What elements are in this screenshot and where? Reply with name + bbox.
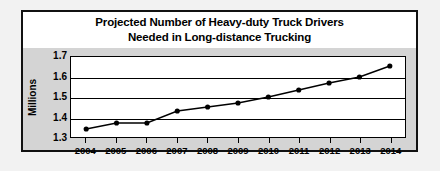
- x-tick: [360, 138, 361, 143]
- y-axis-tick-labels: 1.31.41.51.61.7: [39, 48, 67, 150]
- x-tick: [207, 138, 208, 143]
- gridline: [71, 98, 405, 99]
- data-point: [235, 100, 240, 105]
- chart-title-line-2: Needed in Long-distance Trucking: [128, 30, 311, 45]
- data-point: [387, 63, 392, 68]
- plot-area: [70, 56, 406, 138]
- x-tick: [146, 138, 147, 143]
- data-point: [114, 120, 119, 125]
- data-point: [175, 108, 180, 113]
- x-tick: [269, 138, 270, 143]
- y-tick-label: 1.7: [41, 51, 67, 61]
- y-tick-label: 1.4: [41, 113, 67, 123]
- x-tick: [391, 138, 392, 143]
- x-axis-tick-labels: 2004200520062007200820092010201120122013…: [63, 145, 413, 159]
- x-tick: [238, 138, 239, 143]
- y-axis-title-label: Millions: [28, 78, 39, 115]
- chart-title: Projected Number of Heavy-duty Truck Dri…: [23, 12, 416, 48]
- y-tick-label: 1.3: [41, 133, 67, 143]
- data-point: [296, 87, 301, 92]
- x-tick: [85, 138, 86, 143]
- x-tick: [177, 138, 178, 143]
- data-point: [205, 104, 210, 109]
- y-axis-title: Millions: [26, 66, 40, 128]
- data-point: [144, 120, 149, 125]
- x-tick: [330, 138, 331, 143]
- chart-title-line-1: Projected Number of Heavy-duty Truck Dri…: [95, 15, 343, 30]
- x-tick-label: 2014: [371, 145, 411, 157]
- x-tick: [299, 138, 300, 143]
- gridline: [71, 119, 405, 120]
- gridline: [71, 78, 405, 79]
- data-series-line: [71, 57, 405, 137]
- x-tick: [116, 138, 117, 143]
- data-point: [327, 80, 332, 85]
- chart-frame: Projected Number of Heavy-duty Truck Dri…: [21, 10, 418, 152]
- plot-panel: Millions 1.31.41.51.61.7 200420052006200…: [23, 48, 416, 150]
- data-point: [84, 126, 89, 131]
- y-tick-label: 1.5: [41, 92, 67, 102]
- y-tick-label: 1.6: [41, 72, 67, 82]
